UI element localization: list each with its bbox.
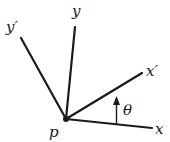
- angle-arrow-icon: [113, 96, 120, 124]
- angle-theta-label: θ: [123, 101, 132, 119]
- y-axis-label: y: [71, 2, 81, 20]
- x-axis: [66, 119, 152, 128]
- rotated-axes-diagram: x y x′ y′ θ p: [0, 0, 170, 142]
- y-axis: [66, 27, 75, 119]
- y-prime-axis: [21, 38, 66, 119]
- y-prime-axis-label: y′: [5, 18, 18, 36]
- x-prime-axis-label: x′: [146, 62, 158, 80]
- origin-point: [63, 116, 69, 122]
- x-axis-label: x: [155, 120, 164, 138]
- origin-p-label: p: [49, 123, 59, 141]
